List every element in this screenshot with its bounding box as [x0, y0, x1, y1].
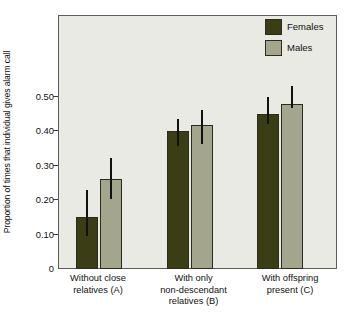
x-tick-line: present (C)	[244, 285, 336, 297]
plot-inner: Females Males	[59, 16, 336, 268]
bar-males-c	[281, 104, 303, 269]
y-tick-label: 0.10	[16, 230, 54, 239]
x-tick-line: relatives (B)	[146, 296, 241, 308]
legend-label-females: Females	[287, 21, 323, 32]
x-tick-line: relatives (A)	[54, 285, 142, 297]
x-tick-line: With offspring	[244, 273, 336, 285]
error-bar-males-a	[110, 158, 111, 199]
legend-swatch-males	[265, 40, 282, 56]
error-bar-males-c	[291, 86, 292, 108]
error-bar-males-b	[201, 110, 202, 144]
legend-item-males: Males	[265, 39, 329, 56]
x-tick-label-a: Without close relatives (A)	[54, 273, 142, 296]
bar-females-b	[167, 131, 189, 269]
x-axis-tick-labels: Without close relatives (A) With only no…	[58, 273, 337, 323]
x-tick-line: Without close	[54, 273, 142, 285]
bar-females-c	[257, 114, 279, 269]
y-axis-tick-labels: 0.50 0.40 0.30 0.20 0.10 0	[14, 0, 54, 325]
x-tick-line: non-descendant	[146, 285, 241, 297]
y-tick-label: 0	[16, 264, 54, 273]
bar-males-b	[191, 125, 213, 269]
y-tick-label: 0.40	[16, 126, 54, 135]
y-tick-label: 0.30	[16, 161, 54, 170]
legend-item-females: Females	[265, 18, 329, 35]
y-axis-title: Proportion of times that individual give…	[0, 15, 14, 269]
error-bar-females-b	[177, 119, 178, 147]
chart-legend: Females Males	[265, 18, 329, 56]
y-axis-title-text: Proportion of times that individual give…	[2, 51, 12, 233]
legend-swatch-females	[265, 19, 282, 35]
alarm-call-bar-chart: Proportion of times that individual give…	[0, 0, 352, 325]
x-tick-label-c: With offspring present (C)	[244, 273, 336, 296]
plot-area: Females Males	[58, 15, 337, 269]
x-tick-label-b: With only non-descendant relatives (B)	[146, 273, 241, 308]
y-tick-label: 0.20	[16, 195, 54, 204]
error-bar-females-c	[267, 97, 268, 125]
legend-label-males: Males	[287, 42, 312, 53]
y-tick-label: 0.50	[16, 92, 54, 101]
error-bar-females-a	[86, 190, 87, 236]
x-tick-line: With only	[146, 273, 241, 285]
